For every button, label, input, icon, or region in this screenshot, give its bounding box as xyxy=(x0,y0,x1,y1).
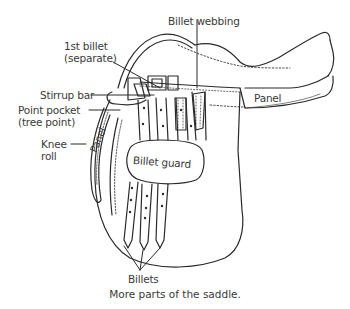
saddle-diagram: 1st billet (separate) Billet webbing Sti… xyxy=(0,0,350,309)
label-billets: Billets xyxy=(128,273,159,285)
label-first-billet-line2: (separate) xyxy=(64,52,117,64)
label-point-pocket-line1: Point pocket xyxy=(18,104,80,116)
label-point-pocket-line2: (tree point) xyxy=(18,116,80,128)
label-stirrup-bar: Stirrup bar xyxy=(40,89,94,101)
label-first-billet-line1: 1st billet xyxy=(64,40,117,52)
label-point-pocket: Point pocket (tree point) xyxy=(18,104,80,128)
label-panel-right: Panel xyxy=(254,92,281,104)
label-first-billet: 1st billet (separate) xyxy=(64,40,117,64)
label-knee-roll-line2: roll xyxy=(41,150,67,162)
label-knee-roll-line1: Knee xyxy=(41,138,67,150)
label-billet-webbing: Billet webbing xyxy=(168,15,240,27)
label-knee-roll: Knee roll xyxy=(41,138,67,162)
figure-caption: More parts of the saddle. xyxy=(0,288,350,300)
